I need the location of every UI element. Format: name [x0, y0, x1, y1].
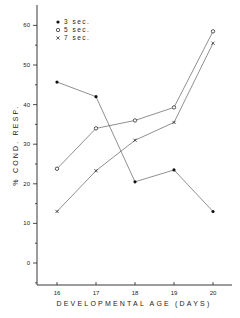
x-tick-label: 19 — [171, 290, 178, 296]
legend-item-label: 7 sec. — [64, 34, 90, 41]
y-tick-label: 20 — [23, 181, 30, 187]
x-marker — [211, 42, 214, 45]
x-tick-label: 20 — [210, 290, 217, 296]
y-tick-label: 50 — [23, 62, 30, 68]
open-circle-marker — [55, 167, 58, 170]
y-tick-label: 0 — [27, 260, 31, 266]
series-5sec — [55, 30, 214, 171]
x-marker — [172, 121, 175, 124]
y-ticks: 0102030405060 — [23, 22, 37, 282]
line-chart: 0102030405060 1617181920 3 sec.5 sec.7 s… — [0, 0, 240, 318]
x-tick-label: 17 — [93, 290, 100, 296]
series-lines — [55, 30, 214, 213]
open-circle-marker — [133, 119, 136, 122]
y-tick-label: 30 — [23, 141, 30, 147]
filled-circle-marker — [56, 20, 59, 23]
open-circle-marker — [211, 30, 214, 33]
y-axis-title: % COND. RESP. — [12, 104, 19, 185]
x-tick-label: 18 — [132, 290, 139, 296]
open-circle-marker — [56, 28, 59, 31]
legend: 3 sec.5 sec.7 sec. — [56, 18, 90, 41]
x-marker — [133, 139, 136, 142]
x-tick-label: 16 — [54, 290, 61, 296]
filled-circle-marker — [172, 168, 175, 171]
x-marker — [56, 36, 59, 39]
filled-circle-marker — [94, 95, 97, 98]
axes — [37, 5, 232, 285]
x-ticks: 1617181920 — [54, 282, 217, 296]
open-circle-marker — [172, 106, 175, 109]
y-tick-label: 40 — [23, 102, 30, 108]
filled-circle-marker — [211, 210, 214, 213]
x-marker — [55, 210, 58, 213]
x-marker — [94, 169, 97, 172]
legend-item-label: 3 sec. — [64, 18, 90, 25]
filled-circle-marker — [133, 180, 136, 183]
y-tick-label: 10 — [23, 220, 30, 226]
legend-item-label: 5 sec. — [64, 26, 90, 33]
x-axis-title: DEVELOPMENTAL AGE (DAYS) — [57, 300, 212, 308]
series-3sec — [55, 80, 214, 213]
y-tick-label: 60 — [23, 22, 30, 28]
open-circle-marker — [94, 127, 97, 130]
filled-circle-marker — [55, 80, 58, 83]
